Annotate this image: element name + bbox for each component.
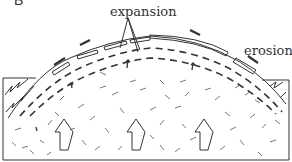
slide-arrow-icon <box>80 40 90 45</box>
small-up-arrow-icon <box>191 63 195 70</box>
small-up-arrow-icon <box>36 127 37 131</box>
slide-arrow-icon <box>248 56 258 63</box>
right-country-rock <box>270 82 286 98</box>
expansion-pointer <box>120 18 140 52</box>
exfoliation-slab <box>77 50 98 59</box>
left-country-rock <box>5 79 34 112</box>
slide-arrow-icon <box>190 30 200 35</box>
exfoliation-slab <box>150 35 228 56</box>
small-up-arrow-icon <box>69 83 73 88</box>
large-up-arrow-icon <box>55 119 73 150</box>
small-up-arrow-icon <box>126 60 130 68</box>
exfoliation-dome-diagram: B expansion erosion <box>0 0 292 162</box>
diagram-drawing <box>0 0 292 162</box>
large-up-arrow-icon <box>127 119 145 150</box>
large-up-arrow-icon <box>195 119 213 150</box>
